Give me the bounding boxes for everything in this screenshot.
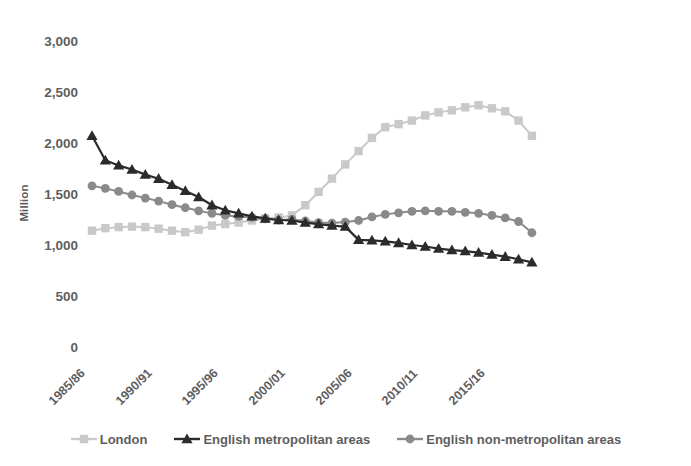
data-point bbox=[434, 108, 442, 116]
series-london bbox=[88, 101, 536, 236]
data-point bbox=[448, 207, 457, 216]
data-point bbox=[514, 116, 522, 124]
data-point bbox=[301, 201, 309, 209]
data-point bbox=[474, 101, 482, 109]
line-chart: Million 05001,0001,5002,0002,5003,000 19… bbox=[0, 0, 691, 466]
data-point bbox=[168, 227, 176, 235]
data-point bbox=[408, 116, 416, 124]
data-point bbox=[341, 160, 349, 168]
data-point bbox=[514, 217, 523, 226]
data-point bbox=[114, 187, 123, 196]
legend-item-english-non-metropolitan-areas[interactable]: English non-metropolitan areas bbox=[396, 432, 621, 447]
data-point bbox=[181, 203, 190, 212]
data-point bbox=[168, 200, 177, 209]
data-point bbox=[394, 120, 402, 128]
data-point bbox=[208, 209, 217, 218]
legend-item-english-metropolitan-areas[interactable]: English metropolitan areas bbox=[173, 432, 370, 447]
data-point bbox=[434, 207, 443, 216]
data-point bbox=[501, 214, 510, 223]
data-point bbox=[394, 208, 403, 217]
data-point bbox=[194, 225, 202, 233]
data-point bbox=[100, 155, 111, 165]
legend-key-circle-icon bbox=[396, 432, 424, 446]
data-point bbox=[354, 147, 362, 155]
data-point bbox=[528, 132, 536, 140]
data-point bbox=[461, 208, 470, 217]
legend-key-square-icon bbox=[70, 432, 98, 446]
legend-label: English metropolitan areas bbox=[203, 432, 370, 447]
data-point bbox=[154, 224, 162, 232]
plot-area bbox=[0, 0, 691, 466]
data-point bbox=[328, 174, 336, 182]
data-point bbox=[488, 104, 496, 112]
data-point bbox=[421, 111, 429, 119]
data-point bbox=[206, 200, 217, 210]
data-point bbox=[86, 130, 97, 140]
data-point bbox=[221, 220, 229, 228]
legend-label: English non-metropolitan areas bbox=[426, 432, 621, 447]
data-point bbox=[141, 194, 150, 203]
legend-item-london[interactable]: London bbox=[70, 432, 148, 447]
data-point bbox=[88, 227, 96, 235]
legend-key-triangle-icon bbox=[173, 432, 201, 446]
data-point bbox=[141, 223, 149, 231]
legend-label: London bbox=[100, 432, 148, 447]
data-point bbox=[101, 224, 109, 232]
data-point bbox=[88, 181, 97, 190]
chart-legend: LondonEnglish metropolitan areasEnglish … bbox=[0, 424, 691, 454]
data-point bbox=[501, 107, 509, 115]
data-point bbox=[408, 207, 417, 216]
data-point bbox=[368, 213, 377, 222]
data-point bbox=[128, 222, 136, 230]
data-point bbox=[488, 211, 497, 220]
data-point bbox=[114, 223, 122, 231]
data-point bbox=[181, 228, 189, 236]
data-point bbox=[208, 221, 216, 229]
data-point bbox=[354, 216, 363, 225]
data-point bbox=[128, 191, 137, 200]
data-point bbox=[368, 134, 376, 142]
data-point bbox=[101, 184, 110, 193]
data-point bbox=[448, 106, 456, 114]
data-point bbox=[421, 206, 430, 215]
data-point bbox=[194, 206, 203, 215]
data-point bbox=[154, 197, 163, 206]
data-point bbox=[474, 209, 483, 218]
data-point bbox=[314, 188, 322, 196]
data-point bbox=[461, 103, 469, 111]
data-point bbox=[381, 123, 389, 131]
data-point bbox=[381, 210, 390, 219]
data-point bbox=[527, 228, 536, 237]
